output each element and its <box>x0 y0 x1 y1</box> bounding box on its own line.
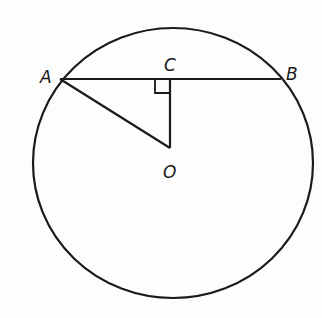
label-c: C <box>164 55 176 75</box>
diagram-canvas: A C B O <box>0 0 322 318</box>
label-b: B <box>286 64 298 84</box>
geometry-diagram: A C B O <box>0 0 322 318</box>
right-angle-marker <box>155 79 170 93</box>
segment-ao <box>60 79 170 148</box>
label-o: O <box>163 162 176 182</box>
label-a: A <box>39 67 52 87</box>
